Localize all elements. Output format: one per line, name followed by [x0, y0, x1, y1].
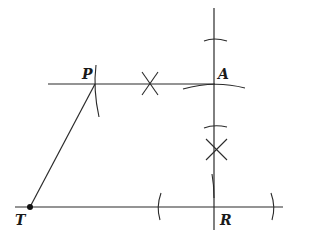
label-T: T — [15, 212, 27, 228]
segment-T-P — [30, 84, 95, 207]
point-T-dot — [27, 204, 33, 210]
arc-top — [204, 39, 227, 41]
arc-at-P — [95, 65, 99, 117]
bisector-mark-AR — [206, 139, 227, 160]
label-A: A — [216, 66, 229, 82]
label-P: P — [81, 66, 93, 82]
arc-below-A — [204, 126, 227, 128]
construction-diagram: P A T R — [0, 0, 309, 238]
label-R: R — [219, 212, 232, 228]
